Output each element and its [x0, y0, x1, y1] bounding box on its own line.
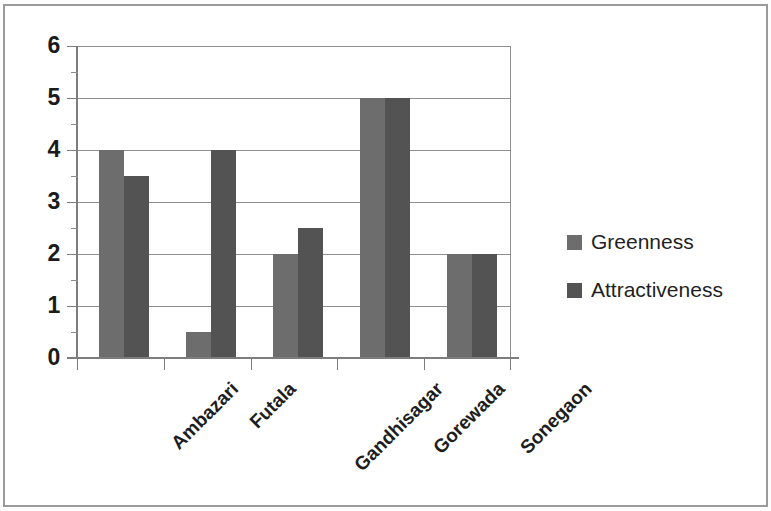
y-tick-minor-1-5 [71, 280, 78, 281]
y-axis-label-3: 3 [30, 190, 60, 213]
plot-area [77, 46, 511, 358]
y-tick-minor-4-5 [71, 124, 78, 125]
bar-futala-attractiveness [211, 150, 236, 358]
y-tick-3 [67, 202, 78, 203]
y-axis-label-6: 6 [30, 34, 60, 57]
y-tick-minor-0-5 [71, 332, 78, 333]
x-axis-label-futala: Futala [245, 378, 300, 433]
y-tick-minor-2-5 [71, 228, 78, 229]
y-axis-label-2: 2 [30, 242, 60, 265]
legend-item-attractiveness: Attractiveness [567, 266, 767, 314]
legend-swatch-icon-attractiveness [567, 283, 582, 298]
y-axis-label-5: 5 [30, 86, 60, 109]
y-tick-minor-5-5 [71, 72, 78, 73]
y-tick-1 [67, 306, 78, 307]
bar-gandhisagar-greenness [273, 254, 298, 358]
bar-ambazari-greenness [99, 150, 124, 358]
legend-swatch-icon-greenness [567, 235, 582, 250]
bar-gorewada-attractiveness [385, 98, 410, 358]
y-tick-5 [67, 98, 78, 99]
bar-gandhisagar-attractiveness [298, 228, 323, 358]
y-tick-6 [67, 46, 78, 47]
bar-sonegaon-greenness [447, 254, 472, 358]
chart-screenshot: 6 5 4 3 2 1 0 Ambazari Futala Gandhisaga… [0, 0, 771, 511]
legend-item-greenness: Greenness [567, 218, 767, 266]
x-axis-line [67, 357, 519, 359]
y-axis-label-1: 1 [30, 294, 60, 317]
x-tick-0 [77, 358, 78, 370]
legend-label-greenness: Greenness [591, 230, 694, 254]
bar-ambazari-attractiveness [124, 176, 149, 358]
bar-futala-greenness [186, 332, 211, 358]
gridline-6 [77, 46, 511, 47]
legend-label-attractiveness: Attractiveness [591, 278, 723, 302]
x-tick-3 [337, 358, 338, 370]
bar-gorewada-greenness [360, 98, 385, 358]
y-tick-4 [67, 150, 78, 151]
x-axis-label-ambazari: Ambazari [167, 378, 243, 454]
gridline-4 [77, 150, 511, 151]
x-axis-label-sonegaon: Sonegaon [516, 378, 596, 458]
x-tick-4 [424, 358, 425, 370]
y-tick-minor-3-5 [71, 176, 78, 177]
x-tick-1 [164, 358, 165, 370]
x-axis-label-gandhisagar: Gandhisagar [350, 378, 448, 476]
gridline-5 [77, 98, 511, 99]
plot-right-edge [510, 46, 511, 359]
chart-legend: Greenness Attractiveness [567, 218, 767, 314]
x-tick-5 [510, 358, 511, 370]
bar-sonegaon-attractiveness [472, 254, 497, 358]
y-axis-label-0: 0 [30, 346, 60, 369]
chart-frame: 6 5 4 3 2 1 0 Ambazari Futala Gandhisaga… [3, 4, 768, 507]
x-tick-2 [251, 358, 252, 370]
y-tick-2 [67, 254, 78, 255]
y-axis-label-4: 4 [30, 138, 60, 161]
